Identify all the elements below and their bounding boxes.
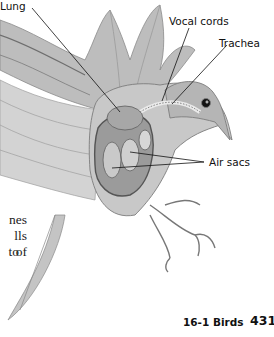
body-text-line-3: to <box>0 244 19 260</box>
page-number: 431 <box>250 313 274 328</box>
bird-feet <box>150 200 215 272</box>
label-trachea: Trachea <box>219 38 260 49</box>
label-vocal-cords: Vocal cords <box>169 16 229 27</box>
bird-anatomy-illustration <box>0 0 274 337</box>
body-text-line-1: nes <box>0 212 27 228</box>
bird-body <box>89 82 232 216</box>
textbook-page: Lung Vocal cords Trachea Air sacs nes ll… <box>0 0 274 337</box>
label-lung: Lung <box>0 1 26 12</box>
label-air-sacs: Air sacs <box>209 157 250 168</box>
section-title: 16-1 Birds <box>183 316 243 328</box>
